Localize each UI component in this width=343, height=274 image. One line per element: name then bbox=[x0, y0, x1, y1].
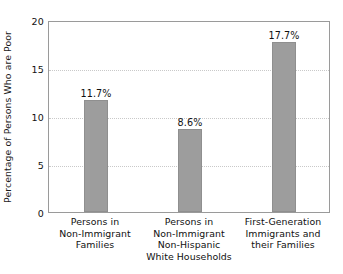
plot-area: 11.7%8.6%17.7% bbox=[48, 21, 330, 213]
category-label-line: Non-Hispanic bbox=[142, 239, 236, 251]
category-label-line: White Households bbox=[142, 251, 236, 263]
category-label-line: Non-Immigrant bbox=[142, 228, 236, 240]
y-axis-tick-labels: 05101520 bbox=[20, 0, 44, 274]
bar-series: 11.7%8.6%17.7% bbox=[49, 22, 329, 212]
y-axis-title: Percentage of Persons Who are Poor bbox=[0, 21, 14, 213]
x-axis-category-labels: Persons inNon-ImmigrantFamiliesPersons i… bbox=[48, 216, 330, 274]
y-axis-tick-label: 5 bbox=[20, 160, 44, 171]
category-label-line: Persons in bbox=[142, 216, 236, 228]
bar bbox=[178, 129, 202, 212]
y-axis-tick-label: 20 bbox=[20, 16, 44, 27]
category-label-line: Families bbox=[48, 239, 142, 251]
bar-value-label: 11.7% bbox=[66, 88, 126, 99]
bar bbox=[84, 100, 108, 212]
chart-figure: Percentage of Persons Who are Poor 05101… bbox=[0, 0, 343, 274]
x-axis-category-label: First-GenerationImmigrants andtheir Fami… bbox=[236, 216, 330, 251]
x-axis-category-label: Persons inNon-ImmigrantNon-HispanicWhite… bbox=[142, 216, 236, 262]
category-label-line: their Families bbox=[236, 239, 330, 251]
category-label-line: Non-Immigrant bbox=[48, 228, 142, 240]
x-axis-category-label: Persons inNon-ImmigrantFamilies bbox=[48, 216, 142, 251]
category-label-line: Immigrants and bbox=[236, 228, 330, 240]
category-label-line: First-Generation bbox=[236, 216, 330, 228]
category-label-line: Persons in bbox=[48, 216, 142, 228]
bar-value-label: 8.6% bbox=[160, 117, 220, 128]
bar-value-label: 17.7% bbox=[254, 30, 314, 41]
y-axis-tick-label: 15 bbox=[20, 64, 44, 75]
y-axis-tick-label: 10 bbox=[20, 112, 44, 123]
y-axis-tick-label: 0 bbox=[20, 208, 44, 219]
bar bbox=[272, 42, 296, 212]
